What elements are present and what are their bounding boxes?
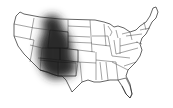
us-outline bbox=[14, 7, 158, 98]
highlight-region bbox=[38, 15, 76, 79]
state-borders bbox=[14, 18, 150, 82]
florida bbox=[118, 78, 132, 98]
us-map bbox=[0, 0, 173, 108]
great-lakes bbox=[108, 26, 130, 38]
